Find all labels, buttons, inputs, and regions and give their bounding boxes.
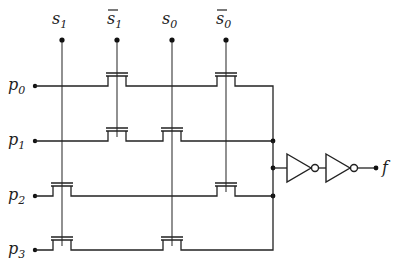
- label-s1: s1: [52, 9, 67, 31]
- terminal-dot: [223, 37, 228, 42]
- data-labels: p0 p1 p2 p3: [8, 75, 25, 261]
- inverter-bubble: [312, 165, 319, 172]
- inverter-1: [287, 154, 311, 182]
- label-p0: p0: [8, 75, 25, 97]
- label-p3: p3: [8, 239, 25, 261]
- inverter-2: [326, 154, 350, 182]
- row-p2: [33, 183, 276, 198]
- terminal-dot: [59, 37, 64, 42]
- mux-circuit-diagram: s1 s1 s0 s0 p0 p1 p2 p3: [0, 0, 397, 266]
- label-p1: p1: [8, 130, 25, 152]
- select-labels: s1 s1 s0 s0: [52, 9, 231, 31]
- select-lines: [59, 37, 228, 246]
- label-s0-bar: s0: [216, 9, 231, 31]
- inverter-bubble: [351, 165, 358, 172]
- terminal-dot: [169, 37, 174, 42]
- label-s0: s0: [162, 9, 177, 31]
- output-buffer: f: [271, 154, 391, 182]
- row-p0: [33, 73, 273, 141]
- output-dot: [374, 166, 379, 171]
- terminal-dot: [114, 37, 119, 42]
- output-label-f: f: [381, 158, 391, 177]
- label-s1-bar: s1: [107, 9, 122, 31]
- row-p1: [33, 128, 276, 143]
- label-p2: p2: [8, 185, 25, 207]
